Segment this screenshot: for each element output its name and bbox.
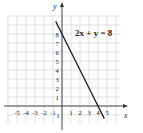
y-axis-label: y [52,2,57,11]
y-tick-label: 3 [55,76,58,83]
y-tick-label: 8 [55,31,58,38]
equation-label: 2x + y = 8 [75,28,113,38]
graph-plot: -5-4-3-2-112345123456781 2x + y = 8 x y [0,0,143,133]
y-tick-label: 5 [55,58,58,65]
x-tick-label: -4 [23,109,29,116]
x-tick-label: 5 [105,109,108,116]
y-tick-label-negative: 1 [57,113,60,119]
x-tick-label: -5 [14,109,19,116]
y-tick-label: 2 [55,85,58,92]
x-axis-label: x [123,111,128,120]
x-tick-label: 1 [69,109,72,116]
x-tick-label: -1 [50,109,55,116]
x-tick-label: -2 [41,109,46,116]
x-tick-label: 3 [87,109,90,116]
x-tick-label: 2 [78,109,81,116]
x-tick-label: -3 [32,109,37,116]
y-tick-label: 1 [55,94,58,101]
